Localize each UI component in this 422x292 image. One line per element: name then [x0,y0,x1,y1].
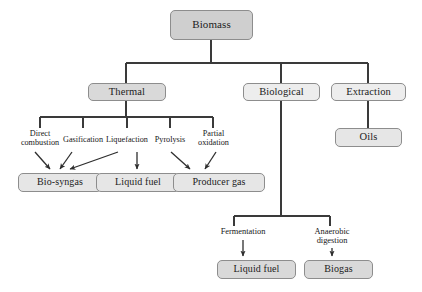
node-liquid-fuel-thermal-label: Liquid fuel [115,177,161,187]
node-biogas-label: Biogas [324,264,352,274]
node-oils[interactable]: Oils [335,128,402,147]
process-label-fermentation-line1: Fermentation [204,228,282,237]
biomass-conversion-diagram: Biomass Thermal Biological Extraction Di… [0,0,422,292]
node-bio-syngas-label: Bio-syngas [37,177,83,187]
node-biological-label: Biological [259,87,304,98]
node-producer-gas-label: Producer gas [192,177,245,187]
process-label-anaerobic-digestion: Anaerobic digestion [303,228,361,246]
process-label-partial-oxidation: Partial oxidation [185,130,242,147]
node-thermal-label: Thermal [109,87,145,98]
node-extraction-label: Extraction [346,87,391,98]
process-label-anaerobic-digestion-line2: digestion [303,237,361,246]
node-biomass-label: Biomass [192,19,231,30]
node-liquid-fuel-thermal[interactable]: Liquid fuel [96,173,180,192]
node-liquid-fuel-biological[interactable]: Liquid fuel [217,260,296,279]
node-producer-gas[interactable]: Producer gas [173,173,265,192]
node-oils-label: Oils [360,132,378,143]
node-biogas[interactable]: Biogas [304,260,373,279]
node-liquid-fuel-biological-label: Liquid fuel [234,264,280,274]
node-biological[interactable]: Biological [243,83,320,101]
node-thermal[interactable]: Thermal [88,83,166,101]
node-bio-syngas[interactable]: Bio-syngas [18,173,102,192]
node-biomass[interactable]: Biomass [170,10,253,40]
process-label-fermentation: Fermentation [204,228,282,237]
node-extraction[interactable]: Extraction [331,83,406,101]
process-label-partial-oxidation-line2: oxidation [185,139,242,148]
